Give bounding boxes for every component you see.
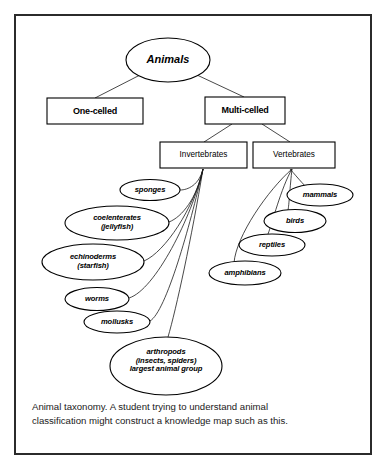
caption-line-2: classification might construct a knowled… — [32, 414, 342, 428]
figure-root: Animals One-celled Multi-celled Inverteb… — [0, 0, 386, 469]
caption-line-1: Animal taxonomy. A student trying to und… — [32, 400, 342, 414]
figure-frame — [14, 14, 372, 455]
figure-caption: Animal taxonomy. A student trying to und… — [32, 400, 342, 428]
